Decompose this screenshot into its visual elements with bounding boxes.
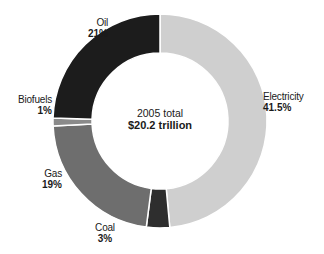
label-coal: Coal 3% <box>92 222 118 244</box>
label-gas-pct: 19% <box>40 179 62 190</box>
label-electricity-pct: 41.5% <box>263 102 304 113</box>
label-electricity: Electricity 41.5% <box>263 91 304 113</box>
label-gas: Gas 19% <box>40 168 62 190</box>
label-electricity-name: Electricity <box>263 91 304 102</box>
center-year-label: 2005 total <box>110 107 210 119</box>
label-coal-name: Coal <box>92 222 118 233</box>
label-oil: Oil 21% <box>78 17 108 39</box>
label-biofuels-name: Biofuels <box>14 94 52 105</box>
label-biofuels: Biofuels 1% <box>14 94 52 116</box>
label-oil-pct: 21% <box>78 28 108 39</box>
center-label: 2005 total $20.2 trillion <box>110 107 210 131</box>
label-coal-pct: 3% <box>92 233 118 244</box>
center-total-value: $20.2 trillion <box>110 119 210 131</box>
label-gas-name: Gas <box>40 168 62 179</box>
slice-gas <box>53 124 151 227</box>
label-oil-name: Oil <box>78 17 108 28</box>
label-biofuels-pct: 1% <box>14 105 52 116</box>
